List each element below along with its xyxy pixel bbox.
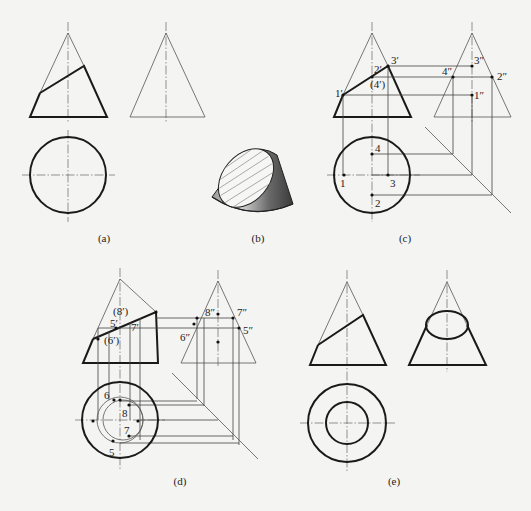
label-6-side: 6″ — [180, 331, 190, 343]
panel-b-isometric: (b) — [207, 138, 293, 245]
label-8-front: (8′) — [113, 305, 129, 318]
label-7-top: 7 — [124, 424, 130, 436]
caption-c: (c) — [399, 232, 412, 245]
label-7-side: 7″ — [237, 306, 247, 318]
cone-section-diagram: (a) (b) — [0, 0, 531, 511]
label-5-top: 5 — [109, 446, 115, 458]
panel-d: 5′ (6′) 7′ (8′) 5″ 6″ 7″ 8″ 5 6 7 8 (d) — [75, 268, 258, 488]
front-view-a — [30, 22, 107, 122]
caption-b: (b) — [252, 232, 265, 245]
panel-e: (e) — [300, 270, 486, 488]
label-7-front: 7′ — [131, 321, 139, 333]
caption-d: (d) — [174, 475, 187, 488]
label-1-top: 1 — [340, 177, 346, 189]
label-6-front: (6′) — [104, 334, 120, 347]
label-4-top: 4 — [375, 142, 381, 154]
caption-e: (e) — [388, 475, 401, 488]
label-5-side: 5″ — [243, 324, 253, 336]
caption-a: (a) — [98, 232, 111, 245]
label-2-side: 2″ — [497, 70, 507, 82]
label-3-top: 3 — [390, 177, 396, 189]
label-1-front: 1′ — [335, 87, 343, 99]
label-4-side: 4″ — [442, 65, 452, 77]
label-4-front: (4′) — [370, 78, 386, 91]
label-5-front: 5′ — [110, 317, 118, 329]
label-3-front: 3′ — [391, 54, 399, 66]
miter-line-c — [425, 127, 511, 213]
label-8-top: 8 — [122, 407, 128, 419]
label-2-top: 2 — [375, 197, 381, 209]
miter-line-d — [172, 373, 258, 459]
label-1-side: 1″ — [474, 89, 484, 101]
top-view-a — [22, 130, 115, 222]
label-8-side: 8″ — [205, 306, 215, 318]
label-2-front: 2′ — [374, 63, 382, 75]
side-view-a — [130, 22, 205, 122]
panel-c: 1′ 2′ 3′ (4′) 1″ 2″ 3″ 4″ 1 2 3 4 (c) — [327, 22, 511, 245]
label-3-side: 3″ — [474, 54, 484, 66]
panel-a: (a) — [22, 22, 205, 245]
label-6-top: 6 — [104, 389, 110, 401]
